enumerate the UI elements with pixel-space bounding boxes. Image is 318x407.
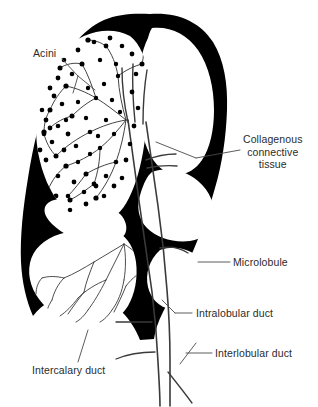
gland-diagram [0, 0, 318, 407]
label-microlobule: Microlobule [233, 256, 288, 269]
label-intralobular-duct: Intralobular duct [196, 307, 273, 320]
label-intercalary-duct: Intercalary duct [32, 364, 105, 377]
label-acini: Acini [33, 47, 56, 60]
figure-root: Acini Collagenous connective tissue Micr… [0, 0, 318, 407]
label-collagenous-connective-tissue: Collagenous connective tissue [243, 133, 302, 171]
label-interlobular-duct: Interlobular duct [215, 347, 292, 360]
